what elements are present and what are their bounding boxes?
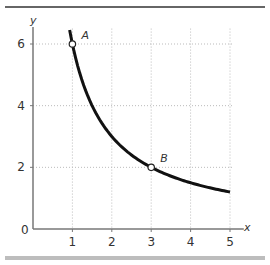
axes [33,27,244,229]
x-tick-label: 4 [187,235,195,249]
x-tick-label: 5 [226,235,234,249]
y-axis-label: y [29,14,37,27]
bottom-bar [5,256,265,260]
y-tick-label: 6 [17,37,25,51]
data-points: AB [69,29,168,171]
y-tick-label: 2 [17,160,25,174]
grid-lines [33,29,234,229]
point-a-label: A [80,29,89,42]
x-tick-label: 3 [147,235,155,249]
x-axis-label: x [243,221,251,234]
y-tick-label: 4 [17,99,25,113]
chart-figure: 12345246 AB y x 0 [0,0,270,265]
point-b-marker [148,164,154,170]
point-b-label: B [160,152,168,165]
x-tick-label: 2 [108,235,116,249]
origin-label: 0 [21,223,29,237]
point-a-marker [69,41,75,47]
x-tick-label: 1 [69,235,77,249]
tick-labels: 12345246 [17,37,233,249]
